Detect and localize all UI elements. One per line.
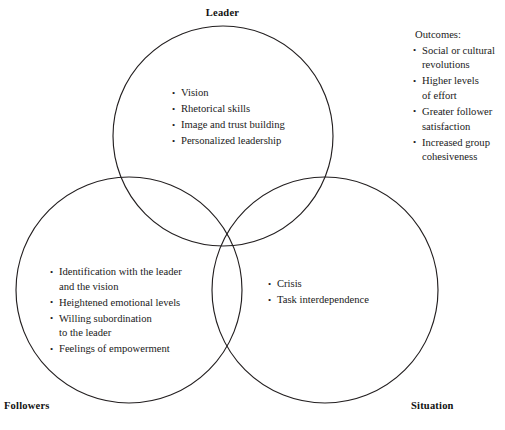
venn-diagram-canvas: Leader Followers Situation Vision Rhetor… [0,0,505,430]
list-item: Social or cultural revolutions [413,44,503,73]
situation-attributes-list: Crisis Task interdependence [268,277,408,309]
circle-label-followers: Followers [4,400,50,411]
outcomes-list: Social or cultural revolutions Higher le… [413,44,503,165]
list-item: Willing subordination to the leader [50,312,225,341]
list-item: Task interdependence [268,293,408,308]
list-item: Vision [172,86,337,101]
list-item: Feelings of empowerment [50,342,225,357]
list-item: Increased group cohesiveness [413,136,503,165]
list-item: Rhetorical skills [172,102,337,117]
circle-label-leader: Leader [0,7,445,18]
list-item: Higher levels of effort [413,74,503,103]
leader-attributes-list: Vision Rhetorical skills Image and trust… [172,86,337,150]
list-item: Greater follower satisfaction [413,105,503,134]
outcomes-heading: Outcomes: [415,28,503,43]
list-item: Crisis [268,277,408,292]
outcomes-block: Outcomes: Social or cultural revolutions… [413,28,503,166]
list-item: Identification with the leader and the v… [50,265,225,294]
list-item: Personalized leadership [172,134,337,149]
list-item: Image and trust building [172,118,337,133]
followers-attributes-list: Identification with the leader and the v… [50,265,225,359]
circle-label-situation: Situation [411,400,454,411]
list-item: Heightened emotional levels [50,296,225,311]
